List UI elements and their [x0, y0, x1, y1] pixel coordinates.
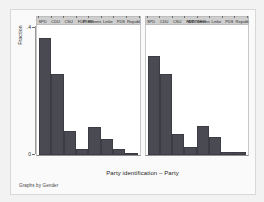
bar: [234, 152, 246, 155]
bar: [160, 74, 172, 155]
bar: [39, 38, 51, 155]
bar: [64, 131, 76, 155]
facet-panels: men SPDCDUCSUFDPGreensLinkePDSRepubl. wo…: [36, 16, 249, 156]
y-axis-tick-label-max: .4: [19, 24, 31, 30]
bar: [209, 137, 221, 155]
x-axis-label: Greens: [88, 19, 101, 24]
bar: [51, 74, 63, 155]
x-axis-label: SPD: [38, 19, 46, 24]
graph-frame: Fraction .4 0 men SPDCDUCSUFDPGreensLink…: [10, 9, 256, 195]
x-axis-label: PDS: [117, 19, 125, 24]
x-axis-label: FDP: [78, 19, 86, 24]
bar: [148, 56, 160, 155]
plot-area-men: [36, 25, 141, 156]
x-axis-label: Republ.: [127, 19, 141, 24]
x-axis-label: PDS: [225, 19, 233, 24]
bar: [197, 126, 209, 155]
x-axis-label: SPD: [147, 19, 155, 24]
chart-screenshot: Fraction .4 0 men SPDCDUCSUFDPGreensLink…: [0, 0, 264, 202]
x-axis-label: CDU: [51, 19, 60, 24]
bar: [184, 147, 196, 155]
x-axis-labels-men: SPDCDUCSUFDPGreensLinkePDSRepubl.: [36, 19, 141, 26]
graph-inner: Fraction .4 0 men SPDCDUCSUFDPGreensLink…: [11, 10, 255, 194]
bar: [101, 139, 113, 155]
x-axis-label: CSU: [173, 19, 181, 24]
bar: [125, 153, 137, 155]
y-axis-title: Fraction: [17, 0, 23, 70]
bar: [113, 149, 125, 156]
x-axis-labels-women: SPDCDUCSUFDPGreensLinkePDSRepubl.: [145, 19, 250, 26]
x-axis-label: CDU: [160, 19, 169, 24]
panel-women: women SPDCDUCSUFDPGreensLinkePDSRepubl.: [145, 16, 250, 156]
y-axis-tick-label-min: 0: [19, 151, 31, 157]
bar: [172, 134, 184, 155]
plot-area-women: [145, 25, 250, 156]
x-axis-label: Republ.: [236, 19, 250, 24]
bar: [88, 127, 100, 155]
graph-note: Graphs by Gender: [19, 183, 58, 188]
x-axis-label: Greens: [197, 19, 210, 24]
bar: [221, 152, 233, 155]
bar-series-men: [39, 25, 138, 155]
x-axis-label: FDP: [186, 19, 194, 24]
x-axis-label: Linke: [212, 19, 222, 24]
x-axis-label: Linke: [103, 19, 113, 24]
x-axis-title: Party identification – Party: [36, 170, 249, 176]
panel-men: men SPDCDUCSUFDPGreensLinkePDSRepubl.: [36, 16, 141, 156]
x-axis-label: CSU: [64, 19, 72, 24]
bar: [76, 149, 88, 156]
bar-series-women: [148, 25, 247, 155]
